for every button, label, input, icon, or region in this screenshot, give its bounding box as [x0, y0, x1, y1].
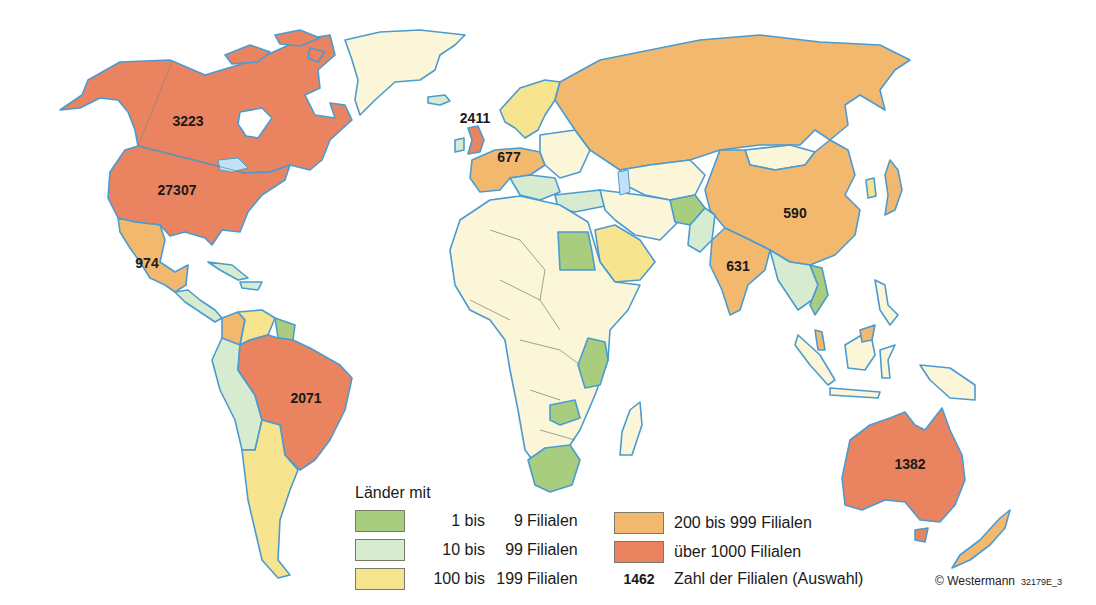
caspian-sea: [618, 170, 630, 195]
region-central-america: [175, 290, 222, 322]
legend-title: Länder mit: [355, 484, 431, 502]
legend-item-100-199: 100 bis 199 Filialen: [355, 568, 578, 590]
label-canada: 3223: [172, 113, 203, 129]
label-germany: 677: [497, 149, 520, 165]
swatch-100-199: [355, 568, 405, 590]
region-egypt: [558, 232, 595, 270]
label-uk: 2411: [460, 110, 490, 126]
image-code: 32179E_3: [1021, 577, 1062, 587]
label-china: 590: [783, 205, 806, 221]
copyright: © Westermann32179E_3: [935, 574, 1062, 588]
legend-item-10-99: 10 bis 99 Filialen: [355, 539, 578, 561]
region-caribbean: [208, 262, 262, 290]
region-philippines: [875, 280, 898, 325]
label-brazil: 2071: [290, 390, 321, 406]
region-sulawesi: [880, 345, 895, 378]
legend: Länder mit 1 bis 9 Filialen 10 bis 99 Fi…: [355, 484, 431, 506]
label-mexico: 974: [135, 255, 158, 271]
swatch-over-1000: [614, 541, 664, 563]
swatch-10-99: [355, 539, 405, 561]
legend-item-200-999: 200 bis 999 Filialen: [614, 512, 812, 534]
region-guianas: [275, 318, 295, 340]
legend-item-over-1000: über 1000 Filialen: [614, 541, 801, 563]
region-madagascar: [620, 402, 642, 455]
label-usa: 27307: [158, 182, 197, 198]
region-japan: [885, 160, 902, 215]
region-korea: [866, 178, 876, 198]
label-india: 631: [726, 258, 749, 274]
region-iceland: [428, 95, 450, 105]
region-scandinavia: [500, 80, 560, 138]
region-ireland: [455, 138, 464, 152]
region-java: [830, 388, 880, 398]
region-sumatra: [795, 335, 835, 385]
region-uk: [468, 126, 484, 154]
region-tasmania: [915, 528, 928, 542]
swatch-1-9: [355, 510, 405, 532]
region-new-guinea: [920, 365, 975, 400]
label-australia: 1382: [894, 456, 925, 472]
region-new-zealand: [952, 510, 1010, 568]
swatch-200-999: [614, 512, 664, 534]
legend-item-1-9: 1 bis 9 Filialen: [355, 510, 578, 532]
legend-sample-number: 1462 Zahl der Filialen (Auswahl): [614, 568, 863, 590]
